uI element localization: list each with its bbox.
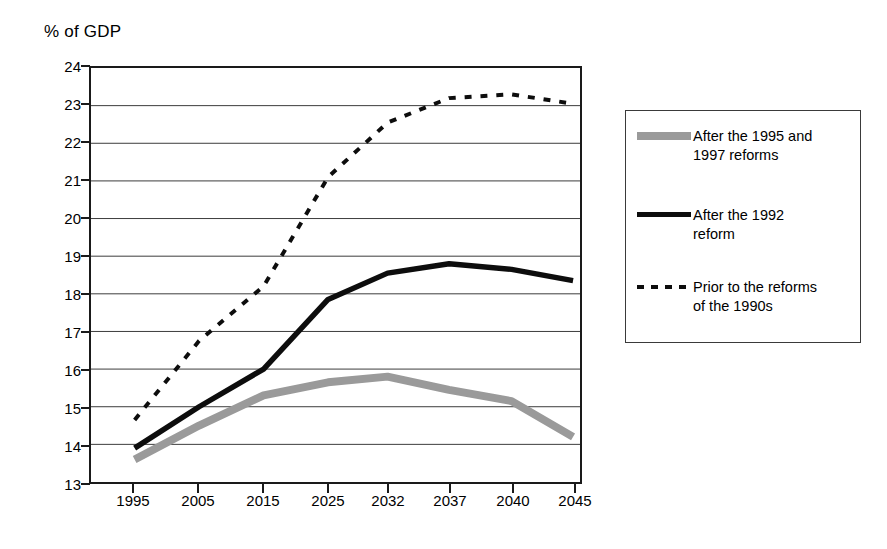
thick-gray-line-swatch-icon [637,128,691,144]
legend-label-line2: of the 1990s [693,298,773,314]
y-tick-label-22: 22 [47,135,81,150]
y-tick-label-18: 18 [47,287,81,302]
plot-canvas [91,68,580,482]
series-line-1 [135,264,573,448]
x-tick-label-2015: 2015 [246,492,279,510]
thick-black-line-swatch-icon [637,207,691,223]
y-tick-label-16: 16 [47,363,81,378]
x-tick-label-2032: 2032 [371,492,404,510]
dotted-black-line-swatch-icon [637,279,691,295]
legend-label-after-1995-1997-reforms: After the 1995 and 1997 reforms [691,127,812,165]
y-tick-label-19: 19 [47,249,81,264]
y-tick-label-20: 20 [47,211,81,226]
x-tick-label-2040: 2040 [496,492,529,510]
x-tick-label-2045: 2045 [558,492,591,510]
x-tick-label-2037: 2037 [433,492,466,510]
legend-label-prior-to-reforms: Prior to the reforms of the 1990s [691,278,817,316]
y-tick-label-17: 17 [47,325,81,340]
legend-label-line1: Prior to the reforms [693,279,817,295]
x-tick-label-2005: 2005 [181,492,214,510]
legend-entry-after-1992-reform: After the 1992 reform [637,206,853,244]
legend-label-line1: After the 1992 [693,207,784,223]
legend-label-after-1992-reform: After the 1992 reform [691,206,784,244]
legend-entry-prior-to-reforms: Prior to the reforms of the 1990s [637,278,853,316]
y-tick-label-13: 13 [47,477,81,492]
chart-figure: % of GDP 242322212019181716151413 199520… [0,0,887,549]
x-axis-tick-labels: 19952005201520252032203720402045 [89,492,582,522]
legend-entry-after-1995-1997-reforms: After the 1995 and 1997 reforms [637,127,853,165]
legend-label-line1: After the 1995 and [693,128,812,144]
chart-legend: After the 1995 and 1997 reforms After th… [625,110,861,343]
y-tick-label-24: 24 [47,59,81,74]
y-axis-tick-labels: 242322212019181716151413 [39,66,81,484]
x-tick-label-1995: 1995 [116,492,149,510]
legend-label-line2: reform [693,226,735,242]
y-tick-label-14: 14 [47,439,81,454]
x-tick-label-2025: 2025 [311,492,344,510]
y-tick-label-23: 23 [47,97,81,112]
legend-label-line2: 1997 reforms [693,147,778,163]
y-axis-title: % of GDP [44,22,121,42]
y-tick-label-21: 21 [47,173,81,188]
series-line-0 [135,377,573,460]
y-tick-label-15: 15 [47,401,81,416]
plot-area [89,66,582,484]
